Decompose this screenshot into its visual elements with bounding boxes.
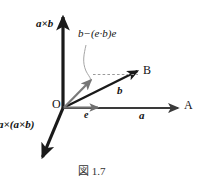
label-point-B: B [143,64,151,76]
vector-b [64,71,138,108]
vector-perpendicular-component [64,80,91,108]
figure-caption: 図 1.7 [78,166,106,176]
label-vector-b: b [117,85,123,96]
label-origin-O: O [52,98,61,110]
leader-line [84,45,91,79]
label-axis-A: A [184,99,193,111]
label-vector-a: a [139,110,145,121]
label-vector-e: e [84,110,88,120]
axis-a-cross-a-cross-b [43,108,64,157]
label-projection-expression: b−(e·b)e [78,28,116,39]
label-a-cross-a-cross-b: a×(a×b) [0,119,34,130]
label-a-cross-b: a×b [36,18,53,29]
vector-diagram-figure: a×b b−(e·b)e a×(a×b) O A B a b e 図 1.7 [0,0,198,176]
